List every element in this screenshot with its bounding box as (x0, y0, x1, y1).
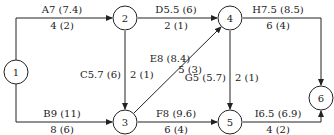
node-2: 2 (113, 6, 137, 30)
edge-label-b-bottom: 8 (6) (50, 124, 74, 135)
edge-label-b-top: B9 (11) (43, 108, 81, 119)
edge-label-c-left: C5.7 (6) (80, 69, 121, 80)
svg-text:4: 4 (227, 13, 233, 24)
node-4: 4 (218, 6, 242, 30)
edge-label-d-top: D5.5 (6) (155, 4, 196, 15)
edge-label-f-bottom: 6 (4) (164, 124, 188, 135)
network-diagram: 1 2 3 4 5 6 A7 (7.4) 4 (2) B9 (11) 8 (6)… (0, 0, 334, 135)
edge-label-c-right: 2 (1) (130, 69, 154, 80)
edge-label-d-bottom: 2 (1) (164, 20, 188, 31)
svg-text:2: 2 (122, 13, 128, 24)
edge-label-g-right: 2 (1) (235, 72, 259, 83)
edge-label-i-bottom: 4 (2) (266, 124, 290, 135)
edge-label-f-top: F8 (9.6) (156, 108, 196, 119)
edge-label-a-bottom: 4 (2) (50, 20, 74, 31)
node-6: 6 (309, 86, 333, 110)
svg-text:1: 1 (13, 67, 19, 78)
edge-label-a-top: A7 (7.4) (41, 4, 83, 15)
edge-label-i-top: I6.5 (6.9) (255, 108, 302, 119)
node-3: 3 (113, 110, 137, 134)
node-5: 5 (218, 110, 242, 134)
svg-text:3: 3 (122, 117, 128, 128)
edge-label-e-top: E8 (8.4) (150, 53, 191, 64)
svg-text:6: 6 (318, 93, 324, 104)
svg-text:5: 5 (227, 117, 233, 128)
edge-label-g-left: G5 (5.7) (185, 72, 226, 83)
edge-label-h-bottom: 6 (4) (266, 20, 290, 31)
node-1: 1 (4, 60, 28, 84)
edge-label-h-top: H7.5 (8.5) (252, 4, 304, 15)
